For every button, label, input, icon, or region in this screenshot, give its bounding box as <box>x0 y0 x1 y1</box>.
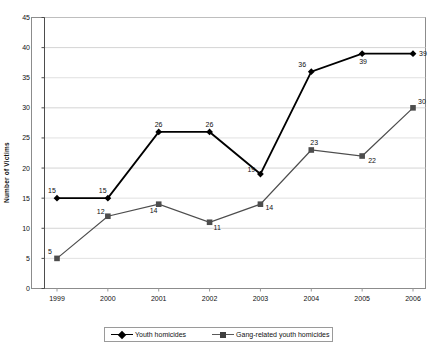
x-tick-label-1999: 1999 <box>42 295 72 303</box>
legend-item-gang-related-youth-homicides[interactable]: Gang-related youth homicides <box>212 328 329 341</box>
x-tick-label-2006: 2006 <box>398 295 428 303</box>
x-tick-label-2001: 2001 <box>144 295 174 303</box>
x-axis-tick-labels: 19992000200120022003200420052006 <box>0 0 432 347</box>
legend-label-youth-homicides: Youth homicides <box>135 331 186 339</box>
x-tick-label-2000: 2000 <box>93 295 123 303</box>
line-chart: Number of Victims 051015202530354045 512… <box>0 0 432 347</box>
chart-legend: Youth homicides Gang-related youth homic… <box>104 327 333 342</box>
x-tick-label-2005: 2005 <box>347 295 377 303</box>
legend-marker-diamond-icon <box>111 330 133 339</box>
x-tick-label-2002: 2002 <box>195 295 225 303</box>
legend-label-gang-related-youth-homicides: Gang-related youth homicides <box>236 331 329 339</box>
legend-item-youth-homicides[interactable]: Youth homicides <box>111 328 186 341</box>
x-tick-label-2003: 2003 <box>245 295 275 303</box>
legend-marker-square-icon <box>212 330 234 339</box>
x-tick-label-2004: 2004 <box>296 295 326 303</box>
